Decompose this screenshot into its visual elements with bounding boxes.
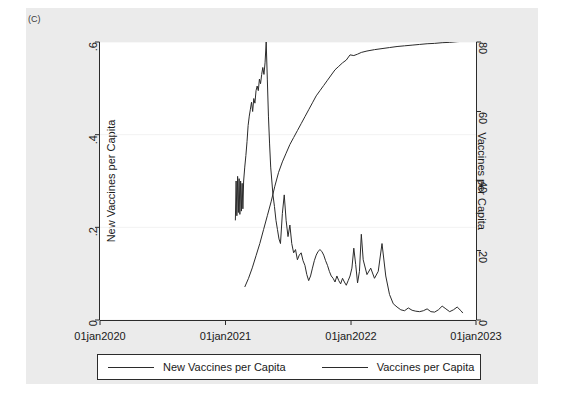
y-axis-right-tick-label: 0 — [477, 320, 489, 326]
x-axis-tick-label: 01jan2020 — [74, 330, 125, 342]
panel-label: (C) — [28, 14, 41, 24]
y-axis-left-tick-label: .6 — [87, 42, 99, 51]
series-lines — [235, 42, 462, 313]
x-axis-tick-label: 01jan2021 — [200, 330, 251, 342]
figure-panel-c: (C) New Vaccines per Capita Vaccines per… — [0, 0, 569, 410]
legend-label: New Vaccines per Capita — [163, 361, 286, 373]
y-axis-right-tick-label: 80 — [477, 42, 489, 54]
legend-entry-vaccines[interactable]: Vaccines per Capita — [312, 361, 475, 373]
legend-label: Vaccines per Capita — [377, 361, 475, 373]
gridlines — [100, 42, 476, 320]
x-axis-tick-label: 01jan2023 — [450, 330, 501, 342]
y-axis-left-tick-label: .2 — [87, 227, 99, 236]
x-axis-tick-label: 01jan2022 — [325, 330, 376, 342]
legend-entry-new-vaccines[interactable]: New Vaccines per Capita — [98, 361, 286, 373]
y-axis-right-tick-label: 60 — [477, 112, 489, 124]
y-axis-right-tick-label: 20 — [477, 251, 489, 263]
y-axis-right-tick-label: 40 — [477, 181, 489, 193]
y-axis-left-tick-label: 0 — [87, 320, 99, 326]
y-axis-left-tick-label: .4 — [87, 135, 99, 144]
plot-canvas — [100, 42, 476, 320]
plot-area: New Vaccines per Capita Vaccines per Cap… — [100, 42, 476, 320]
line-swatch-icon — [322, 367, 368, 368]
series-line — [235, 42, 462, 313]
legend: New Vaccines per Capita Vaccines per Cap… — [97, 354, 481, 380]
line-swatch-icon — [108, 367, 154, 368]
